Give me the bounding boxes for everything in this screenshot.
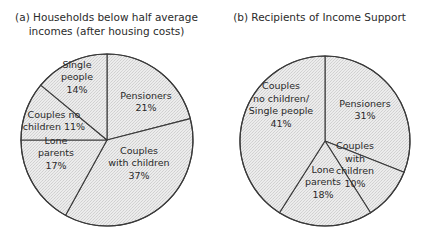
pie-chart-a: Pensioners21%Coupleswith children37%Lone… — [21, 54, 193, 226]
slice-label-couples-no-children: Couples nochildren 11% — [23, 109, 85, 133]
pie-chart-b: Pensioners31%Coupleswithchildren10%Lonep… — [240, 56, 410, 226]
pie-charts: Pensioners21%Coupleswith children37%Lone… — [0, 0, 426, 235]
